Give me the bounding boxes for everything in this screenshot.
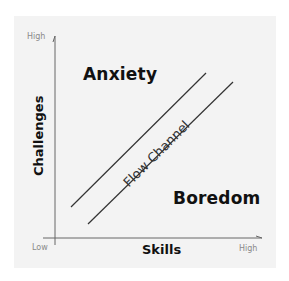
y-axis-title: Challenges [32,96,45,176]
x-axis-high-label: High [239,245,257,253]
region-anxiety-label: Anxiety [83,66,157,83]
y-axis-high-label: High [27,33,45,41]
flow-channel-upper-line [71,73,206,207]
region-boredom-label: Boredom [173,190,261,207]
x-axis-title: Skills [142,243,181,256]
x-axis-low-label: Low [32,244,48,252]
